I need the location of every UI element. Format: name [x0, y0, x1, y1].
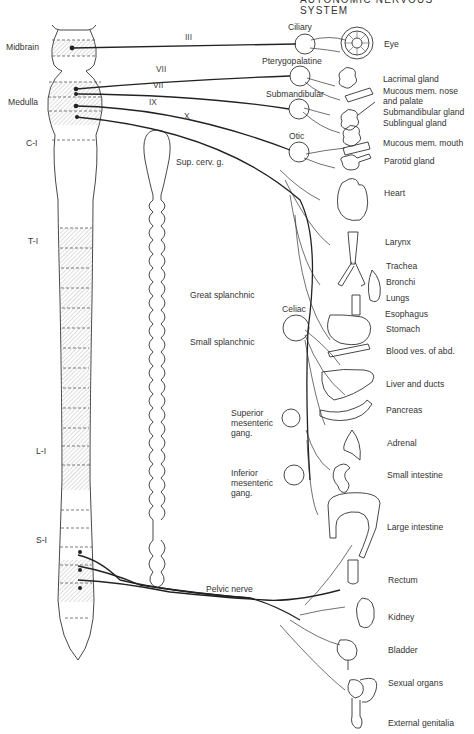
sympathetic-chain [144, 130, 170, 588]
nerve-VII-label: VII [156, 64, 166, 74]
organ-sublingual-label: Sublingual gland [383, 118, 447, 128]
celiac-ganglion [283, 315, 309, 341]
level-midbrain: Midbrain [6, 42, 39, 52]
ganglion-pterygopalatine-label: Pterygopalatine [262, 56, 322, 66]
nerve-IX-label: IX [149, 97, 157, 107]
esophagus-organ [352, 295, 360, 315]
pelvic-nerve-label: Pelvic nerve [206, 584, 253, 594]
large-intestine-organ [328, 493, 380, 558]
organ-heart-label: Heart [384, 188, 405, 198]
blood-vessels-organ [328, 344, 370, 357]
nerve-X-label: X [184, 111, 190, 121]
superior-mesenteric-ganglion [282, 409, 300, 427]
organ-liver-label: Liver and ducts [386, 379, 444, 389]
level-medulla: Medulla [8, 97, 38, 107]
inferior-mesenteric-ganglion [284, 465, 304, 485]
ganglion-submandibular-label: Submandibular [266, 89, 324, 99]
bladder-organ [337, 640, 357, 670]
organ-parotid-label: Parotid gland [384, 156, 435, 166]
adrenal-organ [344, 430, 361, 460]
organ-mucous-nose-label: Mucous mem. nose and palate [383, 86, 473, 106]
nerve-VII-label-2: VII [153, 80, 163, 90]
organ-esophagus-label: Esophagus [385, 309, 428, 319]
organ-bronchi-label: Bronchi [386, 277, 415, 287]
organ-pancreas-label: Pancreas [386, 405, 422, 415]
level-l1: L-I [36, 446, 46, 456]
parasympathetic-diagram: AUTONOMIC NERVOUS SYSTEM Midbrain Medull… [0, 0, 474, 734]
larynx-organ [348, 232, 358, 264]
pancreas-organ [320, 400, 372, 421]
submandibular-ganglion [289, 99, 309, 119]
ganglion-inf-mesenteric-label: Inferior mesenteric gang. [231, 468, 279, 498]
organ-stomach-label: Stomach [386, 324, 420, 334]
lungs-organ [368, 270, 380, 302]
parotid-gland [341, 154, 371, 170]
level-t1: T-I [28, 236, 38, 246]
ganglion-celiac-label: Celiac [282, 304, 306, 314]
organ-sexual-organs-label: Sexual organs [388, 678, 443, 688]
ganglion-otic-label: Otic [289, 131, 304, 141]
lacrimal-gland [339, 67, 357, 88]
eye-organ [341, 27, 373, 59]
organ-blood-ves-label: Blood ves. of abd. [386, 346, 455, 356]
ganglion-ciliary-label: Ciliary [288, 22, 312, 32]
stomach-organ [328, 315, 371, 345]
ganglion-sup-mesenteric-label: Superior mesenteric gang. [231, 408, 279, 438]
pterygopalatine-ganglion [290, 66, 310, 86]
rectum-organ [348, 560, 358, 584]
ciliary-ganglion [295, 34, 315, 54]
organ-eye-label: Eye [384, 39, 399, 49]
external-genitalia-organ [352, 698, 363, 728]
organ-adrenal-label: Adrenal [387, 438, 417, 448]
organ-bladder-label: Bladder [388, 645, 418, 655]
figure-title: AUTONOMIC NERVOUS SYSTEM [300, 0, 474, 16]
small-intestine-organ [333, 464, 350, 492]
level-s1: S-I [36, 535, 47, 545]
organ-kidney-label: Kidney [388, 612, 414, 622]
organ-lungs-label: Lungs [386, 293, 409, 303]
level-c1: C-I [26, 138, 37, 148]
small-splanchnic-label: Small splanchnic [190, 337, 254, 347]
nerve-III-label: III [185, 32, 192, 42]
organ-mucous-mouth-label: Mucous mem. mouth [383, 138, 463, 148]
organ-larynx-label: Larynx [385, 237, 411, 247]
kidney-organ [356, 598, 374, 628]
organ-lacrimal-label: Lacrimal gland [383, 74, 439, 84]
ganglion-sup-cerv-label: Sup. cerv. g. [176, 157, 224, 167]
submandibular-gland [341, 102, 375, 130]
organ-trachea-label: Trachea [386, 261, 417, 271]
organ-small-intestine-label: Small intestine [387, 470, 443, 480]
mucous-nose [345, 88, 373, 102]
organ-large-intestine-label: Large intestine [387, 522, 443, 532]
sympathetic-region [60, 228, 92, 490]
organ-external-genitalia-label: External genitalia [388, 718, 454, 728]
liver-organ [322, 369, 374, 400]
organ-rectum-label: Rectum [388, 575, 418, 585]
great-splanchnic-label: Great splanchnic [190, 290, 255, 300]
organ-submandibular-gland-label: Submandibular gland [383, 107, 464, 117]
sublingual-gland [343, 125, 361, 146]
bronchi-organ [338, 262, 365, 286]
heart-organ [338, 179, 368, 221]
